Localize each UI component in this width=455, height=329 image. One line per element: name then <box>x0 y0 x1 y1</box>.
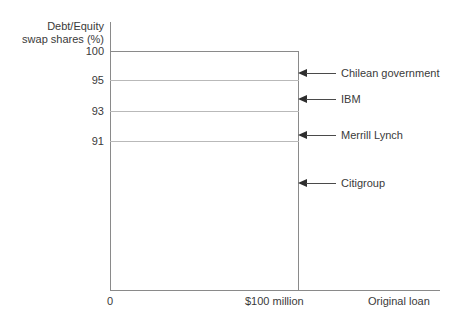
gridline-93 <box>110 111 299 112</box>
callout-leader-ibm <box>306 99 336 100</box>
callout-label-merrill-lynch: Merrill Lynch <box>341 130 403 141</box>
callout-label-chilean-government: Chilean government <box>341 68 439 79</box>
y-tick-label-91: 91 <box>44 136 104 147</box>
callout-label-citigroup: Citigroup <box>341 178 385 189</box>
callout-leader-chilean-government <box>306 73 336 74</box>
gridline-91 <box>110 141 299 142</box>
x-axis-title: Original loan <box>368 296 430 307</box>
chart-canvas: Debt/Equityswap shares (%) 100 95 93 91 … <box>0 0 455 329</box>
gridline-95 <box>110 80 299 81</box>
callout-leader-citigroup <box>306 183 336 184</box>
y-tick-label-100: 100 <box>44 46 104 57</box>
y-tick-label-93: 93 <box>44 106 104 117</box>
x-tick-label-100-million: $100 million <box>245 296 304 307</box>
x-axis-line <box>110 290 440 291</box>
callout-leader-merrill-lynch <box>306 135 336 136</box>
x-axis-origin-label: 0 <box>107 296 113 307</box>
gridline-100 <box>110 51 299 52</box>
y-tick-label-95: 95 <box>44 75 104 86</box>
plot-right-boundary-line <box>298 51 299 291</box>
y-axis-title: Debt/Equityswap shares (%) <box>10 20 104 46</box>
y-axis-title-line1: Debt/Equity <box>47 20 104 32</box>
y-axis-line <box>110 22 111 291</box>
callout-label-ibm: IBM <box>341 94 361 105</box>
y-axis-title-line2: swap shares (%) <box>22 33 104 45</box>
